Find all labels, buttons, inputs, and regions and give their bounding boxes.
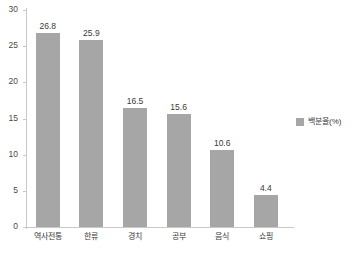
bar-value-label: 26.8: [40, 21, 57, 31]
y-axis-tick-label: 30: [9, 4, 18, 14]
bar[interactable]: [79, 40, 103, 227]
bar-value-label: 25.9: [83, 28, 100, 38]
bar[interactable]: [123, 108, 147, 227]
legend-label-percent: 백분율(%): [308, 117, 341, 127]
legend-swatch-percent: [296, 118, 304, 126]
bar[interactable]: [210, 150, 234, 227]
bar[interactable]: [167, 114, 191, 227]
bar-value-label: 15.6: [170, 102, 187, 112]
y-axis-tick-label: 20: [9, 76, 18, 86]
bar-group: 16.5: [113, 10, 157, 227]
bar-group: 10.6: [200, 10, 244, 227]
y-axis-tick-mark: [23, 227, 26, 228]
y-axis-tick-label: 25: [9, 40, 18, 50]
plot-area: 26.825.916.515.610.64.4: [26, 10, 288, 227]
y-axis-tick-label: 5: [13, 185, 18, 195]
bar-value-label: 4.4: [260, 183, 272, 193]
y-axis-tick-label: 0: [13, 221, 18, 231]
bar-value-label: 10.6: [214, 138, 231, 148]
bar[interactable]: [254, 195, 278, 227]
y-axis-tick-label: 10: [9, 149, 18, 159]
bar-group: 4.4: [244, 10, 288, 227]
bar-value-label: 16.5: [127, 96, 144, 106]
x-axis-line: [26, 227, 294, 228]
chart-legend: 백분율(%): [296, 117, 341, 127]
bar-group: 15.6: [157, 10, 201, 227]
y-axis-tick-label: 15: [9, 113, 18, 123]
bar-group: 26.8: [26, 10, 70, 227]
bar[interactable]: [36, 33, 60, 227]
x-axis-category-label: 쇼핑: [238, 232, 294, 242]
bar-group: 25.9: [70, 10, 114, 227]
bar-chart: 302520151050 26.825.916.515.610.64.4 역사전…: [0, 0, 354, 261]
